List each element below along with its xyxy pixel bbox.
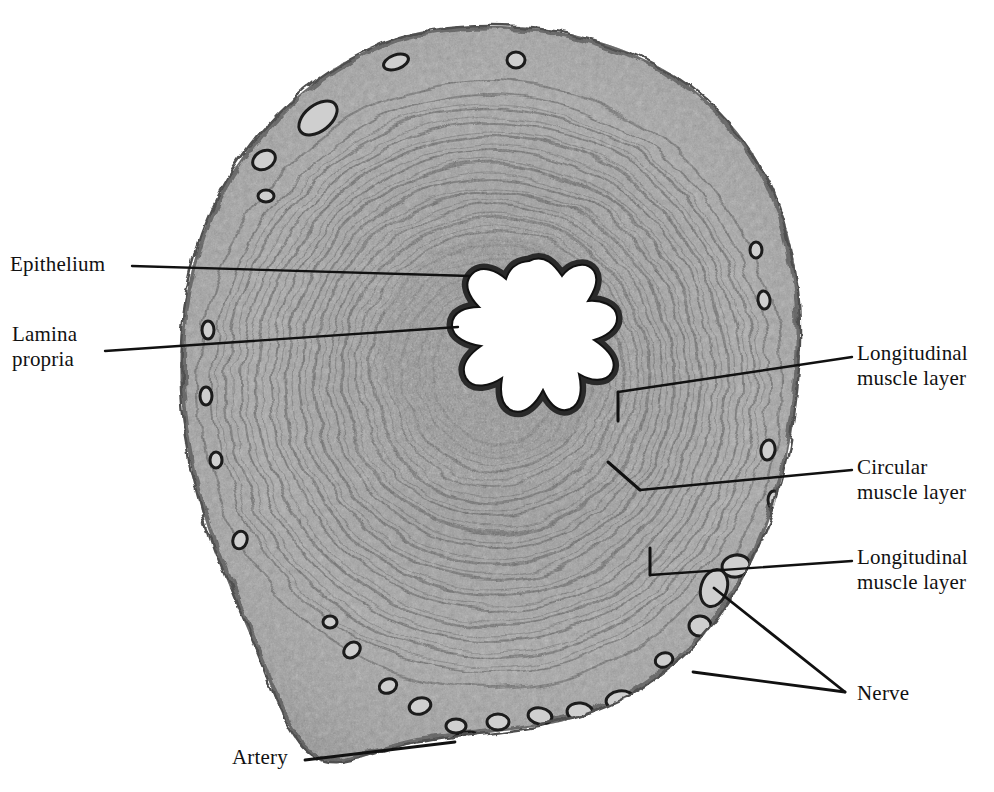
histology-figure: Epithelium Lamina propria Longitudinal m… bbox=[0, 0, 994, 792]
label-longitudinal-muscle-inner: Longitudinal muscle layer bbox=[857, 341, 968, 391]
label-circular-muscle: Circular muscle layer bbox=[857, 455, 966, 505]
label-artery: Artery bbox=[232, 745, 288, 770]
specimen-drawing bbox=[0, 0, 994, 792]
label-nerve: Nerve bbox=[857, 681, 909, 706]
label-longitudinal-muscle-outer: Longitudinal muscle layer bbox=[857, 545, 968, 595]
label-lamina-propria: Lamina propria bbox=[12, 322, 77, 372]
label-epithelium: Epithelium bbox=[10, 252, 105, 277]
